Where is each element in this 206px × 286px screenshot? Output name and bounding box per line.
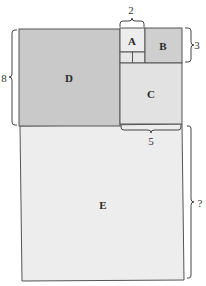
smallest-square-left	[120, 52, 133, 63]
brace-b-height: 3	[185, 28, 200, 62]
square-b-label: B	[159, 40, 167, 52]
square-a-label: A	[128, 35, 136, 47]
c-width-label: 5	[148, 135, 154, 147]
a-width-label: 2	[128, 4, 134, 16]
brace-right-icon	[185, 28, 194, 62]
smallest-squares	[120, 52, 145, 63]
smallest-square-right	[133, 52, 146, 63]
b-height-label: 3	[194, 39, 200, 51]
square-c: C	[120, 63, 182, 124]
square-e-label: E	[99, 199, 106, 211]
square-b: B	[145, 28, 182, 63]
square-a: A	[120, 28, 145, 52]
brace-e-height: ?	[187, 126, 203, 278]
e-height-label: ?	[198, 197, 203, 209]
square-e: E	[20, 124, 184, 281]
fibonacci-squares-diagram: E D A B C 2 3 8 5	[0, 0, 206, 286]
square-d: D	[19, 29, 120, 126]
square-d-label: D	[65, 72, 73, 84]
brace-top-icon	[120, 18, 144, 27]
d-height-label: 8	[1, 72, 7, 84]
brace-left-icon	[9, 30, 17, 125]
square-c-label: C	[147, 88, 155, 100]
brace-a-width: 2	[120, 4, 144, 27]
brace-right-large-icon	[187, 126, 194, 278]
brace-d-height: 8	[1, 30, 17, 125]
